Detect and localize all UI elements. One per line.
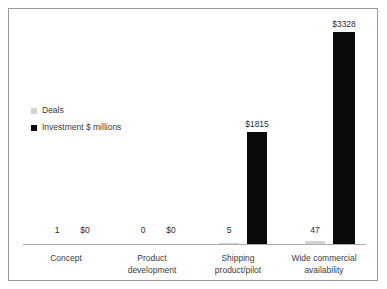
category-label-wide-commercial-availability-line2: availability [304,265,343,275]
bar-investment-wide-commercial-availability [333,32,355,244]
bar-groups: 1 $0 0 $0 5 $1815 [23,9,366,244]
bar-group-wide-commercial-availability: 47 $3328 [281,9,367,244]
bar-investment-shipping-product-pilot [247,132,267,244]
bar-value-deals-wide-commercial-availability: 47 [305,226,325,235]
chart-screenshot: Deals Investment $ millions 1 $0 [0,0,387,289]
category-axis-labels: Concept Product development Shipping pro… [23,249,366,283]
bar-value-investment-shipping-product-pilot: $1815 [241,120,273,129]
category-label-product-development-line1: Product [137,253,166,263]
chart-frame: Deals Investment $ millions 1 $0 [8,8,378,281]
category-axis-line [23,244,366,245]
bar-value-investment-wide-commercial-availability: $3328 [328,20,360,29]
category-label-product-development: Product development [109,253,195,276]
category-label-concept-line1: Concept [50,253,82,263]
bar-group-product-development: 0 $0 [109,9,195,244]
bar-value-deals-product-development: 0 [133,226,153,235]
category-label-shipping-product-pilot: Shipping product/pilot [195,253,281,276]
bar-value-investment-product-development: $0 [161,226,181,235]
bar-group-shipping-product-pilot: 5 $1815 [195,9,281,244]
category-label-wide-commercial-availability-line1: Wide commercial [291,253,356,263]
bar-group-concept: 1 $0 [23,9,109,244]
plot-area: Deals Investment $ millions 1 $0 [9,9,377,280]
bar-value-investment-concept: $0 [75,226,95,235]
bar-value-deals-concept: 1 [47,226,67,235]
category-label-concept: Concept [23,253,109,265]
category-label-shipping-product-pilot-line2: product/pilot [215,265,261,275]
category-label-shipping-product-pilot-line1: Shipping [221,253,254,263]
bar-value-deals-shipping-product-pilot: 5 [219,226,239,235]
category-label-wide-commercial-availability: Wide commercial availability [281,253,367,276]
category-label-product-development-line2: development [128,265,177,275]
